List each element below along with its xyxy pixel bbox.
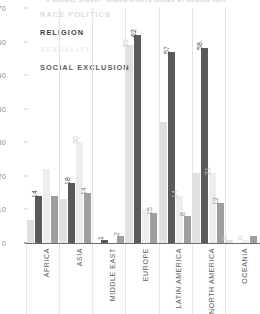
- bar-chart: A GLOBAL SURVEY: HUMAN RIGHTS ISSUES BY …: [0, 0, 260, 314]
- category-divider: [59, 244, 60, 314]
- group-separator: [125, 8, 126, 243]
- y-axis-tick-label: 50: [0, 71, 6, 80]
- category-divider: [159, 244, 160, 314]
- bar-value-label: 18: [65, 176, 72, 184]
- bar-value-label: 57: [164, 46, 171, 54]
- bar-fill: [184, 216, 191, 243]
- group-separator: [92, 8, 93, 243]
- bar-value-label: 1: [98, 236, 105, 240]
- x-axis-label: OCEANIA: [241, 248, 248, 284]
- category-divider: [92, 244, 93, 314]
- bar[interactable]: [250, 8, 257, 243]
- bar-value-label: 14: [32, 190, 39, 198]
- chart-title: A GLOBAL SURVEY: HUMAN RIGHTS ISSUES BY …: [46, 0, 236, 4]
- bar[interactable]: [27, 8, 34, 243]
- y-axis-tick-label: 70: [0, 4, 6, 13]
- x-axis-label: ASIA: [76, 248, 83, 266]
- bar-value-label: 21: [205, 166, 212, 174]
- bar-fill: [51, 196, 58, 243]
- group-separator: [225, 8, 226, 243]
- bar-group: 596215: [125, 8, 158, 243]
- group-separator: [159, 8, 160, 243]
- x-axis-category: AFRICA: [26, 244, 59, 314]
- bar-group: 582112: [192, 8, 225, 243]
- bar[interactable]: 15: [150, 8, 157, 243]
- bar-value-label: 15: [147, 207, 154, 215]
- bar-value-label: 14: [172, 190, 179, 198]
- bar[interactable]: 58: [201, 8, 208, 243]
- y-axis-tick-label: 30: [0, 138, 6, 147]
- bar-fill: [160, 122, 167, 243]
- group-separator: [192, 8, 193, 243]
- bar-fill: [168, 52, 175, 243]
- chart-legend: RACE POLITICSRELIGIONSEXUALITYSOCIAL EXC…: [40, 10, 130, 80]
- x-axis-category: OCEANIA: [225, 244, 258, 314]
- x-axis-label: EUROPE: [142, 248, 149, 281]
- bar[interactable]: 21: [209, 8, 216, 243]
- x-axis-label: MIDDLE EAST: [109, 248, 116, 301]
- legend-item-social-exclusion[interactable]: SOCIAL EXCLUSION: [40, 63, 130, 72]
- category-divider: [225, 244, 226, 314]
- bar-fill: [84, 193, 91, 243]
- bar-fill: [201, 48, 208, 243]
- bar-group: 57148: [159, 8, 192, 243]
- bar-fill: [250, 236, 257, 243]
- bar[interactable]: [160, 8, 167, 243]
- axis-baseline: [26, 243, 260, 244]
- bar-value-label: 62: [131, 29, 138, 37]
- bar[interactable]: 12: [217, 8, 224, 243]
- y-axis-tick-label: 0: [0, 239, 6, 248]
- bar-fill: [43, 169, 50, 243]
- bar[interactable]: 62: [134, 8, 141, 243]
- y-axis-tick-label: 20: [0, 171, 6, 180]
- bar-fill: [27, 220, 34, 244]
- bar-fill: [134, 35, 141, 243]
- bar[interactable]: 14: [176, 8, 183, 243]
- category-divider: [192, 244, 193, 314]
- legend-item-sexuality[interactable]: SEXUALITY: [40, 45, 130, 54]
- y-axis-tick-label: 40: [0, 104, 6, 113]
- bar-value-label: 30: [73, 136, 80, 144]
- bar-fill: [176, 196, 183, 243]
- x-axis-label: AFRICA: [43, 248, 50, 277]
- y-axis: 010203040506070: [0, 0, 26, 243]
- bar-fill: [68, 183, 75, 243]
- bar-group: 00: [225, 8, 258, 243]
- bar-value-label: 2: [114, 232, 121, 236]
- bar[interactable]: 57: [168, 8, 175, 243]
- group-separator: [59, 8, 60, 243]
- x-axis-category: NORTH AMERICA: [192, 244, 225, 314]
- bar-fill: [150, 213, 157, 243]
- y-axis-tick-label: 10: [0, 205, 6, 214]
- bar-value-label: 8: [180, 212, 187, 216]
- bar[interactable]: 8: [184, 8, 191, 243]
- bar-value-label: 12: [213, 197, 220, 205]
- x-axis-category: MIDDLE EAST: [92, 244, 125, 314]
- bar-fill: [117, 236, 124, 243]
- x-axis-labels: AFRICAASIAMIDDLE EASTEUROPELATIN AMERICA…: [26, 244, 258, 314]
- x-axis-category: EUROPE: [125, 244, 158, 314]
- x-axis-label: LATIN AMERICA: [175, 248, 182, 309]
- x-axis-category: ASIA: [59, 244, 92, 314]
- bar[interactable]: 0: [242, 8, 249, 243]
- legend-item-religion[interactable]: RELIGION: [40, 28, 130, 37]
- legend-item-race-politics[interactable]: RACE POLITICS: [40, 10, 130, 19]
- x-axis-label: NORTH AMERICA: [208, 248, 215, 314]
- bar-fill: [193, 173, 200, 244]
- bar[interactable]: [234, 8, 241, 243]
- bar-value-label: 0: [222, 236, 229, 240]
- bar-value-label: 14: [81, 187, 88, 195]
- bar[interactable]: 0: [226, 8, 233, 243]
- bar-fill: [35, 196, 42, 243]
- y-axis-tick-label: 60: [0, 37, 6, 46]
- bar-fill: [60, 199, 67, 243]
- category-divider: [125, 244, 126, 314]
- x-axis-category: LATIN AMERICA: [159, 244, 192, 314]
- category-divider: [26, 244, 27, 314]
- bar-value-label: 0: [238, 236, 245, 240]
- bar-fill: [209, 173, 216, 244]
- bar-value-label: 58: [197, 42, 204, 50]
